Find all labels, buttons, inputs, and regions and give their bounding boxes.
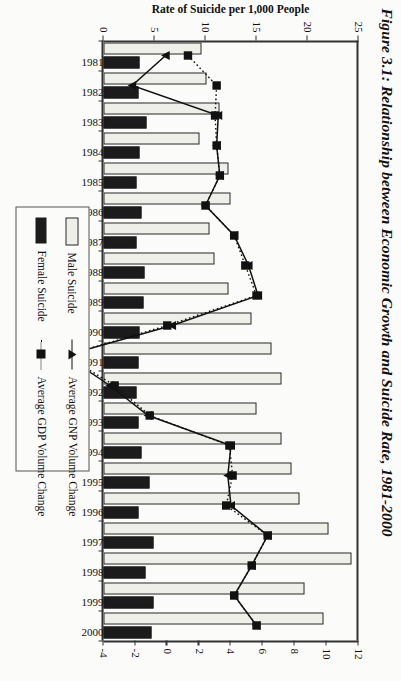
gdp-marker-square: [201, 201, 209, 209]
growth-tick-label: -4: [97, 648, 109, 657]
growth-tick-label: 4: [225, 648, 237, 654]
gdp-marker-square: [241, 261, 249, 269]
legend-item-label: Female Suicide: [35, 250, 47, 321]
year-label: 1996: [81, 505, 103, 517]
growth-tick: [134, 640, 135, 645]
rate-tick-label: 10: [199, 21, 211, 32]
year-tick: [98, 640, 103, 641]
gdp-marker-square: [215, 171, 223, 179]
legend-item: Average GNP Volume Change: [66, 339, 78, 516]
legend-item: Average GDP Volume Change: [35, 339, 47, 516]
growth-tick-label: 6: [256, 648, 268, 654]
year-tick: [98, 130, 103, 131]
legend-swatch-female-bar: [36, 217, 47, 243]
year-label: 1998: [81, 565, 103, 577]
gdp-marker-square: [183, 51, 191, 59]
legend-item-label: Average GNP Volume Change: [66, 376, 78, 516]
rate-tick-label: 25: [352, 21, 364, 32]
legend-item-label: Average GDP Volume Change: [35, 376, 47, 516]
legend-item: Female Suicide: [35, 217, 47, 321]
gdp-marker-square: [252, 621, 260, 629]
year-tick: [98, 460, 103, 461]
legend-swatch-gdp-line: [36, 339, 47, 369]
rate-tick-label: 20: [301, 21, 313, 32]
year-tick: [98, 40, 103, 41]
gdp-marker-square: [247, 561, 255, 569]
year-tick: [98, 250, 103, 251]
rate-tick: [204, 35, 205, 40]
rate-tick-label: 15: [250, 21, 262, 32]
gdp-marker-square: [225, 441, 233, 449]
year-label: 2000: [81, 625, 103, 637]
year-tick: [98, 160, 103, 161]
year-tick: [98, 490, 103, 491]
year-label: 1983: [81, 115, 103, 127]
rate-tick: [255, 35, 256, 40]
gdp-marker-square: [263, 531, 271, 539]
figure-title: Figure 3.1: Relationship between Economi…: [377, 8, 395, 536]
year-label: 1981: [81, 55, 103, 67]
growth-tick-label: 2: [193, 648, 205, 654]
growth-tick: [325, 640, 326, 645]
year-tick: [98, 610, 103, 611]
growth-tick: [165, 640, 166, 645]
year-label: 1985: [81, 175, 103, 187]
growth-tick: [293, 640, 294, 645]
chart-stage: Figure 3.1: Relationship between Economi…: [0, 0, 401, 681]
year-tick: [98, 430, 103, 431]
year-tick: [98, 310, 103, 311]
gdp-marker-square: [212, 81, 220, 89]
year-tick: [98, 280, 103, 281]
gdp-marker-square: [222, 501, 230, 509]
legend-item-label: Male Suicide: [66, 252, 78, 313]
gdp-marker-square: [229, 231, 237, 239]
gnp-marker-triangle: [127, 80, 136, 89]
gdp-marker-square: [229, 591, 237, 599]
year-label: 1997: [81, 535, 103, 547]
rate-axis-title: Rate of Suicide per 1,000 People: [152, 2, 310, 14]
growth-tick: [197, 640, 198, 645]
growth-tick-label: 12: [352, 648, 364, 659]
year-tick: [98, 190, 103, 191]
plot-area: Rate of Suicide per 1,000 People 2520151…: [103, 40, 358, 640]
rate-tick-label: 5: [148, 27, 160, 33]
year-tick: [98, 400, 103, 401]
year-label: 1982: [81, 85, 103, 97]
rate-tick-label: 0: [97, 27, 109, 33]
line-series-group: [103, 40, 358, 640]
legend-swatch-male-bar: [65, 217, 78, 245]
year-tick: [98, 220, 103, 221]
gdp-marker-square: [145, 411, 153, 419]
year-tick: [98, 370, 103, 371]
year-tick: [98, 520, 103, 521]
year-label: 1999: [81, 595, 103, 607]
gdp-marker-square: [212, 141, 220, 149]
year-label: 1995: [81, 475, 103, 487]
year-tick: [98, 70, 103, 71]
rate-tick: [153, 35, 154, 40]
rate-tick: [357, 35, 358, 40]
legend-swatch-gnp-line: [67, 339, 78, 369]
year-tick: [98, 550, 103, 551]
rate-tick: [102, 35, 103, 40]
gdp-marker-square: [252, 291, 260, 299]
growth-tick-label: 0: [161, 648, 173, 654]
chart-legend: Male SuicideFemale SuicideAverage GNP Vo…: [15, 206, 89, 471]
growth-tick-label: 8: [288, 648, 300, 654]
gdp-marker-square: [163, 321, 171, 329]
year-tick: [98, 580, 103, 581]
growth-tick-label: 10: [320, 648, 332, 659]
growth-tick: [357, 640, 358, 645]
figure-page: Figure 3.1: Relationship between Economi…: [0, 0, 401, 681]
legend-item: Male Suicide: [65, 217, 78, 313]
growth-tick: [261, 640, 262, 645]
year-label: 1984: [81, 145, 103, 157]
gdp-marker-square: [228, 471, 236, 479]
growth-tick-label: -2: [129, 648, 141, 657]
year-tick: [98, 340, 103, 341]
rate-tick: [306, 35, 307, 40]
year-tick: [98, 100, 103, 101]
gdp-marker-square: [110, 381, 118, 389]
growth-tick: [229, 640, 230, 645]
gdp-marker-square: [210, 111, 218, 119]
